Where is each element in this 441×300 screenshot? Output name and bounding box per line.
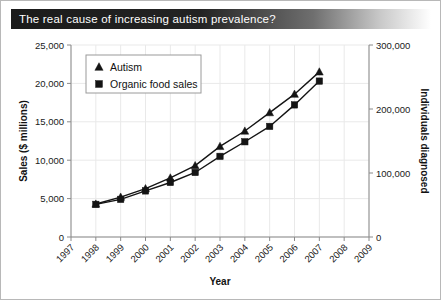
data-point-marker[interactable] bbox=[266, 108, 274, 115]
x-tick-label: 2006 bbox=[277, 242, 300, 265]
data-point-marker[interactable] bbox=[291, 102, 297, 108]
y2-tick-label: 200,000 bbox=[376, 104, 410, 115]
chart-canvas: 05,00010,00015,00020,00025,000 0100,0002… bbox=[1, 31, 441, 300]
data-point-marker[interactable] bbox=[191, 161, 199, 168]
legend-label-1[interactable]: Autism bbox=[110, 61, 142, 73]
page-title: The real cause of increasing autism prev… bbox=[11, 13, 276, 25]
data-point-marker[interactable] bbox=[315, 68, 323, 75]
y-tick-label: 15,000 bbox=[35, 116, 64, 127]
y-tick-label: 25,000 bbox=[35, 40, 64, 51]
y-axis-title: Sales ($ millions) bbox=[18, 100, 29, 182]
y-tick-label: 10,000 bbox=[35, 155, 64, 166]
y-tick-label: 20,000 bbox=[35, 78, 64, 89]
series-line-2[interactable] bbox=[96, 81, 319, 204]
data-point-marker[interactable] bbox=[117, 196, 123, 202]
line-chart: 05,00010,00015,00020,00025,000 0100,0002… bbox=[1, 31, 441, 300]
data-point-marker[interactable] bbox=[266, 123, 272, 129]
x-tick-label: 2007 bbox=[302, 242, 325, 265]
x-axis-title: Year bbox=[209, 276, 230, 287]
y-tick-label: 0 bbox=[59, 232, 64, 243]
data-point-marker[interactable] bbox=[217, 153, 223, 159]
data-point-marker[interactable] bbox=[192, 169, 198, 175]
x-tick-label: 2003 bbox=[203, 242, 226, 265]
chart-legend[interactable]: AutismOrganic food sales bbox=[86, 55, 201, 93]
y2-axis-tick-labels: 0100,000200,000300,000 bbox=[376, 40, 410, 243]
data-point-marker[interactable] bbox=[241, 127, 249, 134]
y-tick-label: 5,000 bbox=[40, 193, 64, 204]
x-tick-label: 2005 bbox=[252, 242, 275, 265]
x-tick-label: 2009 bbox=[352, 242, 375, 265]
x-axis-tick-labels: 1997199819992000200120022003200420052006… bbox=[54, 242, 375, 265]
x-tick-label: 2001 bbox=[153, 242, 176, 265]
data-point-marker[interactable] bbox=[242, 139, 248, 145]
data-point-marker[interactable] bbox=[142, 188, 148, 194]
chart-frame: The real cause of increasing autism prev… bbox=[0, 0, 441, 300]
data-point-marker[interactable] bbox=[316, 78, 322, 84]
legend-marker-square bbox=[96, 81, 103, 88]
x-tick-label: 1997 bbox=[54, 242, 77, 265]
y-axis-tick-labels: 05,00010,00015,00020,00025,000 bbox=[35, 40, 64, 243]
y2-tick-label: 100,000 bbox=[376, 168, 410, 179]
y2-axis-title: Individuals diagnosed bbox=[419, 88, 430, 193]
x-tick-label: 2002 bbox=[178, 242, 201, 265]
title-banner: The real cause of increasing autism prev… bbox=[11, 9, 431, 29]
x-tick-label: 1999 bbox=[103, 242, 126, 265]
y2-tick-label: 0 bbox=[376, 232, 381, 243]
x-tick-label: 2004 bbox=[228, 242, 251, 265]
data-point-marker[interactable] bbox=[93, 201, 99, 207]
x-tick-label: 1998 bbox=[79, 242, 102, 265]
x-tick-label: 2008 bbox=[327, 242, 350, 265]
y2-tick-label: 300,000 bbox=[376, 40, 410, 51]
x-tick-label: 2000 bbox=[128, 242, 151, 265]
legend-label-2[interactable]: Organic food sales bbox=[110, 78, 198, 90]
data-point-marker[interactable] bbox=[167, 179, 173, 185]
data-point-marker[interactable] bbox=[216, 142, 224, 149]
